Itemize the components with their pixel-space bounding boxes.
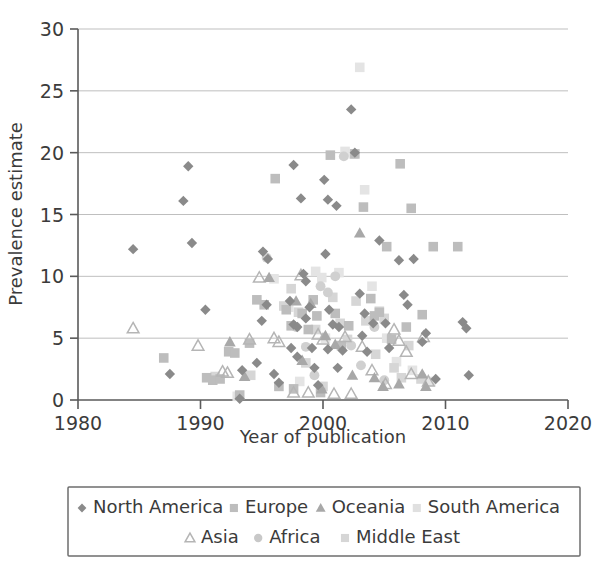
scatter-plot-figure: 051015202530 19801990200020102020 Year o… [0,0,600,578]
data-point [417,310,427,320]
data-point [375,307,385,317]
data-point [230,348,240,358]
legend-label-north-america[interactable]: North America [93,496,223,517]
legend-marker-south-america [413,504,421,512]
y-tick-label: 5 [52,327,64,349]
data-point [356,360,366,370]
data-point [402,322,412,332]
data-point [453,242,463,252]
data-point [339,151,349,161]
y-tick-label: 20 [40,142,64,164]
data-point [317,273,327,283]
legend-label-africa[interactable]: Africa [269,526,320,547]
data-point [344,321,354,331]
data-point [406,204,416,214]
data-point [312,311,322,321]
x-tick-label: 2020 [544,412,592,434]
data-point [367,281,377,291]
y-tick-label: 30 [40,18,64,40]
legend-marker-middle-east [341,534,349,542]
x-tick-label: 2010 [421,412,469,434]
data-point [326,150,336,160]
data-point [428,242,438,252]
legend-marker-europe [230,504,238,512]
data-point [371,349,381,359]
data-point [382,242,392,252]
legend-label-oceania[interactable]: Oceania [332,496,406,517]
data-point [270,174,280,184]
x-tick-label: 1980 [54,412,102,434]
y-tick-label: 0 [52,389,64,411]
chart-background [0,0,600,578]
y-axis-title: Prevalence estimate [5,122,26,306]
data-point [159,353,169,363]
x-tick-label: 1990 [176,412,224,434]
data-point [281,305,291,315]
data-point [323,287,333,297]
data-point [360,185,370,195]
data-point [286,284,296,294]
legend-label-south-america[interactable]: South America [428,496,560,517]
y-tick-label: 25 [40,80,64,102]
y-tick-label: 10 [40,265,64,287]
legend-label-asia[interactable]: Asia [201,526,239,547]
data-point [304,325,314,335]
prevalence-scatter-chart: 051015202530 19801990200020102020 Year o… [0,0,600,578]
legend-label-middle-east[interactable]: Middle East [356,526,460,547]
data-point [355,63,365,73]
legend-marker-africa [254,534,262,542]
legend-label-europe[interactable]: Europe [245,496,308,517]
data-point [359,202,369,212]
x-axis-title: Year of publication [239,426,407,447]
data-point [330,271,340,281]
data-point [395,159,405,169]
data-point [389,363,399,373]
data-point [366,294,376,304]
y-tick-label: 15 [40,204,64,226]
